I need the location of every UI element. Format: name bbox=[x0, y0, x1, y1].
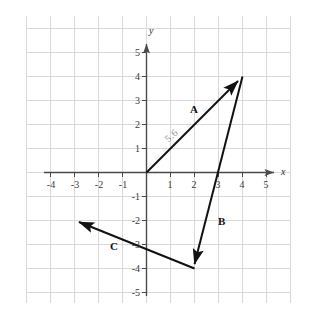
x-tick-label-4: 4 bbox=[235, 180, 249, 190]
y-tick-label--1: -1 bbox=[120, 192, 140, 202]
y-tick-label--5: -5 bbox=[120, 288, 140, 298]
vector-label-a: A bbox=[190, 104, 198, 115]
x-tick-label-5: 5 bbox=[259, 180, 273, 190]
y-tick-label--3: -3 bbox=[120, 240, 140, 250]
y-tick-label-2: 2 bbox=[126, 120, 140, 130]
x-tick-label--3: -3 bbox=[66, 180, 84, 190]
vector-label-c: C bbox=[110, 241, 118, 252]
vector-diagram-figure: -4 -3 -2 -1 1 2 3 4 5 5 4 3 2 1 -1 -2 -3… bbox=[0, 0, 315, 318]
y-tick-label-1: 1 bbox=[126, 144, 140, 154]
x-tick-label-3: 3 bbox=[211, 180, 225, 190]
x-axis-label: x bbox=[281, 167, 285, 177]
x-tick-label--2: -2 bbox=[90, 180, 108, 190]
y-tick-label--2: -2 bbox=[120, 216, 140, 226]
vector-a-arrow bbox=[147, 81, 239, 173]
coordinate-plane-svg bbox=[0, 0, 315, 318]
y-tick-label-4: 4 bbox=[126, 72, 140, 82]
x-tick-label--1: -1 bbox=[114, 180, 132, 190]
x-tick-label-1: 1 bbox=[163, 180, 177, 190]
y-axis-label: y bbox=[149, 26, 153, 36]
y-tick-label-3: 3 bbox=[126, 96, 140, 106]
vector-label-b: B bbox=[218, 216, 225, 227]
y-tick-label--4: -4 bbox=[120, 264, 140, 274]
axis-lines bbox=[44, 44, 274, 296]
y-tick-label-5: 5 bbox=[126, 48, 140, 58]
x-tick-label-2: 2 bbox=[187, 180, 201, 190]
x-tick-label--4: -4 bbox=[42, 180, 60, 190]
